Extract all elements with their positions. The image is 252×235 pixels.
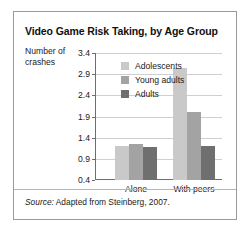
legend-item: Adults [121,87,184,101]
y-tick-label: 2.4 [78,90,90,100]
chart-title: Video Game Risk Taking, by Age Group [25,25,230,37]
y-tick-label: 0.9 [78,154,90,164]
bar [187,112,201,180]
legend-item-label: Adolescents [135,61,182,71]
bar [129,144,143,180]
y-tick-label: 1.4 [78,133,90,143]
legend-item: Young adults [121,73,184,87]
y-tick-mark [92,180,95,181]
legend-swatch-icon [121,62,129,70]
bar [143,147,157,180]
bar [201,146,215,180]
legend-swatch-icon [121,90,129,98]
legend-item-label: Young adults [135,75,184,85]
source-note: Source: Adapted from Steinberg, 2007. [25,197,170,207]
source-citation: Adapted from Steinberg, 2007. [54,197,170,207]
footer-divider [14,189,236,190]
y-axis-line [95,53,96,180]
plot-area: 3.42.92.41.91.40.90.4 AloneWith peers Ad… [95,53,222,180]
y-tick-label: 3.4 [78,48,90,58]
legend-swatch-icon [121,76,129,84]
figure-panel: Video Game Risk Taking, by Age Group Num… [13,11,237,220]
y-tick-label: 0.4 [78,175,90,185]
legend-item: Adolescents [121,59,184,73]
chart-legend: AdolescentsYoung adultsAdults [121,59,184,101]
y-axis-label: Number of crashes [25,46,85,68]
source-label: Source: [25,197,54,207]
legend-item-label: Adults [135,89,159,99]
y-tick-label: 2.9 [78,69,90,79]
y-tick-label: 1.9 [78,112,90,122]
bar [115,146,129,180]
